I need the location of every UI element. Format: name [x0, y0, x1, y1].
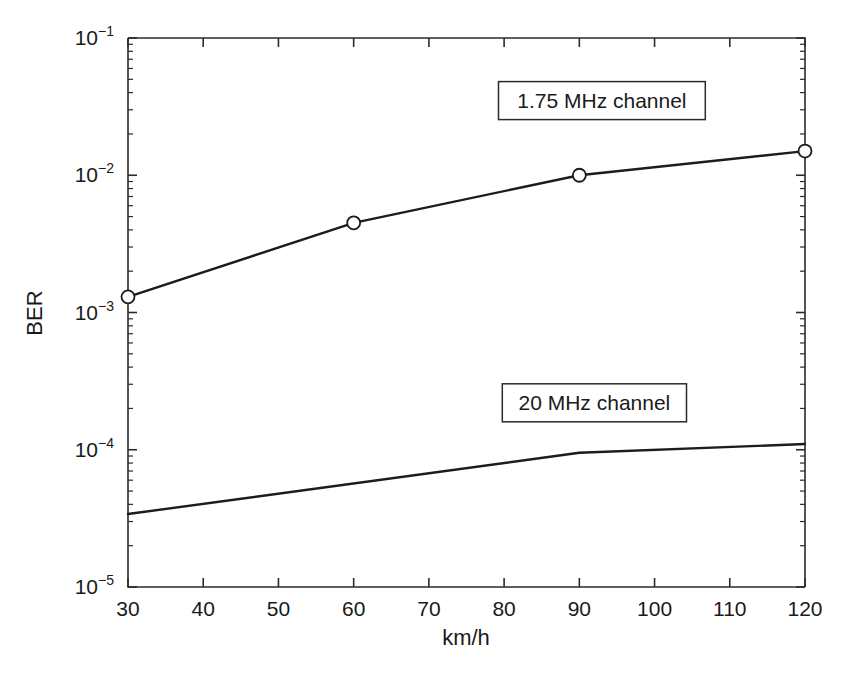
x-tick-label: 60	[342, 597, 365, 620]
x-tick-label: 120	[787, 597, 822, 620]
series-annotation-label: 1.75 MHz channel	[499, 82, 706, 120]
x-tick-label: 100	[637, 597, 672, 620]
x-tick-label: 30	[116, 597, 139, 620]
y-tick-label: 10−1	[75, 23, 115, 49]
annotation-text: 20 MHz channel	[519, 391, 671, 414]
data-point-marker	[347, 216, 360, 229]
x-tick-label: 50	[267, 597, 290, 620]
x-axis-tick-labels: 30405060708090100110120	[116, 597, 822, 620]
ber-vs-speed-line-chart: 10−510−410−310−210−1 3040506070809010011…	[0, 0, 862, 676]
y-tick-label: 10−4	[75, 435, 115, 461]
chart-figure: 10−510−410−310−210−1 3040506070809010011…	[0, 0, 862, 676]
x-tick-label: 90	[568, 597, 591, 620]
y-axis-tick-labels: 10−510−410−310−210−1	[75, 23, 115, 598]
data-point-marker	[573, 169, 586, 182]
y-tick-label: 10−2	[75, 160, 115, 186]
series-annotation-label: 20 MHz channel	[502, 384, 686, 422]
x-tick-label: 110	[713, 597, 746, 620]
annotation-text: 1.75 MHz channel	[517, 89, 686, 112]
x-tick-label: 40	[192, 597, 215, 620]
data-point-marker	[799, 145, 812, 158]
x-axis-title: km/h	[442, 625, 490, 650]
x-tick-label: 70	[417, 597, 440, 620]
y-axis-title: BER	[22, 290, 47, 335]
data-point-marker	[122, 290, 135, 303]
y-tick-label: 10−3	[75, 298, 115, 324]
x-tick-label: 80	[492, 597, 515, 620]
y-tick-label: 10−5	[75, 572, 115, 598]
